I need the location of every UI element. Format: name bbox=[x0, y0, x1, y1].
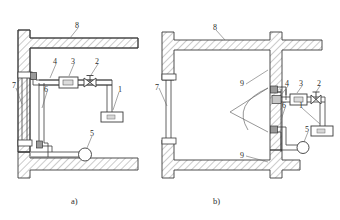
callout-a-3: 3 bbox=[71, 58, 75, 66]
figure-canvas bbox=[0, 0, 340, 220]
callout-a-8: 8 bbox=[75, 22, 79, 30]
callout-b-7: 7 bbox=[155, 84, 159, 92]
panel-a-lower-tap bbox=[37, 141, 43, 148]
panel-a-floor bbox=[18, 152, 138, 178]
panel-b-pump-5 bbox=[297, 142, 309, 154]
caption-panel-a: a) bbox=[71, 196, 78, 206]
panel-b-sleeve-bottom bbox=[162, 138, 176, 144]
panel-b-tank-1 bbox=[311, 126, 333, 136]
callout-b-1: 1 bbox=[299, 102, 303, 110]
panel-b-connector-4 bbox=[272, 96, 281, 104]
panel-b-riser-7 bbox=[166, 80, 171, 138]
callout-b-5: 5 bbox=[305, 126, 309, 134]
callout-b-6: 6 bbox=[282, 102, 286, 110]
callout-a-2: 2 bbox=[95, 58, 99, 66]
panel-a-filter-3 bbox=[59, 77, 78, 88]
panel-a-sleeve-bottom bbox=[18, 140, 32, 146]
callout-b-9-bottom: 9 bbox=[240, 152, 244, 160]
callout-b-3: 3 bbox=[299, 80, 303, 88]
caption-panel-b: b) bbox=[213, 196, 220, 206]
callout-a-4: 4 bbox=[53, 58, 57, 66]
callout-a-1: 1 bbox=[118, 86, 122, 94]
callout-b-2: 2 bbox=[317, 80, 321, 88]
callout-b-8: 8 bbox=[213, 24, 217, 32]
callout-a-7: 7 bbox=[12, 82, 16, 90]
panel-a-wall-tap bbox=[31, 73, 37, 80]
callout-a-6: 6 bbox=[44, 86, 48, 94]
panel-a-sleeve-top bbox=[18, 72, 32, 78]
panel-a bbox=[16, 28, 138, 178]
panel-b-wall-tap-top bbox=[271, 86, 278, 93]
panel-b-door-swing bbox=[230, 88, 268, 132]
panel-b-sleeve-top bbox=[162, 74, 176, 80]
callout-b-4: 4 bbox=[285, 80, 289, 88]
panel-a-tank-1 bbox=[101, 112, 123, 122]
panel-b bbox=[159, 30, 333, 178]
callout-b-9-top: 9 bbox=[240, 80, 244, 88]
panel-b-wall-tap-bottom bbox=[271, 126, 278, 133]
callout-a-5: 5 bbox=[90, 130, 94, 138]
panel-a-pump-5 bbox=[79, 148, 92, 161]
panel-b-slab bbox=[162, 32, 322, 150]
